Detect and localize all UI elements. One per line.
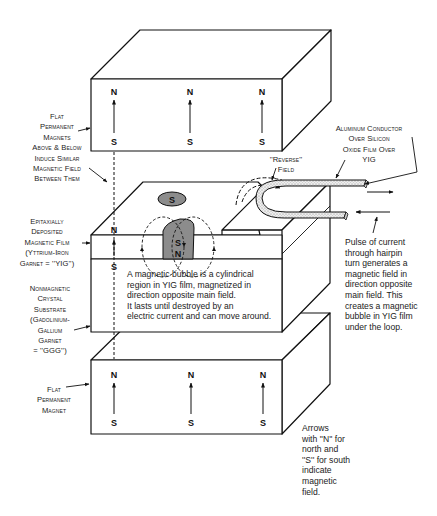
note-arrows: Arrows with ''N'' for north and ''S'' fo… bbox=[302, 423, 382, 497]
note-line: ''S'' for south bbox=[302, 455, 382, 466]
label-line: Flat bbox=[16, 112, 98, 122]
label-line: Over Silicon bbox=[320, 134, 418, 144]
note-line: A magnetic bubble is a cylindrical bbox=[127, 269, 287, 280]
note-line: direction opposite main field. bbox=[127, 290, 287, 301]
note-line: under the loop. bbox=[345, 322, 437, 333]
label-line: Nonmagnetic bbox=[14, 284, 86, 294]
label-line: Induce Similar bbox=[16, 154, 98, 164]
label-line: Gallium bbox=[14, 326, 86, 336]
note-line: direction opposite bbox=[345, 279, 437, 290]
pole-s: S bbox=[111, 418, 117, 428]
note-line: field. bbox=[302, 487, 382, 498]
leader-pulse bbox=[373, 217, 377, 233]
top-magnet bbox=[91, 30, 331, 151]
note-line: turn generates a bbox=[345, 258, 437, 269]
note-line: bubble in YIG film bbox=[345, 311, 437, 322]
note-pulse: Pulse of current through hairpin turn ge… bbox=[345, 237, 437, 332]
label-line: ''Reverse'' bbox=[260, 155, 312, 165]
note-line: magnetic bbox=[302, 476, 382, 487]
note-line: main field. This bbox=[345, 290, 437, 301]
pole-s: S bbox=[188, 418, 194, 428]
note-line: Arrows bbox=[302, 423, 382, 434]
label-line: Garnet = ''YIG'') bbox=[6, 259, 88, 269]
label-line: Above & Below bbox=[16, 143, 98, 153]
pole-n: N bbox=[259, 87, 266, 97]
label-line: Permanent bbox=[24, 395, 84, 405]
label-line: Field bbox=[260, 165, 312, 175]
label-line: Aluminum Conductor bbox=[320, 124, 418, 134]
note-line: creates a magnetic bbox=[345, 301, 437, 312]
label-line: Between Them bbox=[16, 174, 98, 184]
label-bottom-magnet: Flat Permanent Magnet bbox=[24, 385, 84, 416]
pole-s: S bbox=[187, 137, 193, 147]
label-line: Magnet bbox=[24, 406, 84, 416]
pole-s: S bbox=[111, 137, 117, 147]
note-line: magnetic field in bbox=[345, 269, 437, 280]
label-line: Magnetic Field bbox=[16, 164, 98, 174]
note-line: region in YIG film, magnetized in bbox=[127, 280, 287, 291]
note-line: through hairpin bbox=[345, 248, 437, 259]
pole-n: N bbox=[260, 370, 267, 380]
note-line: It lasts until destroyed by an bbox=[127, 301, 287, 312]
bottom-magnet-front-face bbox=[91, 360, 282, 434]
label-line: Garnet bbox=[14, 336, 86, 346]
label-line: (Yttrium-Iron bbox=[6, 248, 88, 258]
note-line: with ''N'' for bbox=[302, 434, 382, 445]
label-top-magnets: Flat Permanent Magnets Above & Below Ind… bbox=[16, 112, 98, 185]
film-pole-n: N bbox=[111, 225, 118, 235]
label-yig-film: Epitaxially Deposited Magnetic Film (Ytt… bbox=[6, 217, 88, 269]
label-line: (Gadolinium- bbox=[14, 315, 86, 325]
pole-n: N bbox=[187, 87, 194, 97]
note-line: Pulse of current bbox=[345, 237, 437, 248]
note-line: north and bbox=[302, 444, 382, 455]
label-line: Magnets bbox=[16, 133, 98, 143]
bubble-pole-n: N bbox=[175, 249, 182, 259]
label-line: Magnetic Film bbox=[6, 238, 88, 248]
pole-s: S bbox=[260, 418, 266, 428]
label-line: Flat bbox=[24, 385, 84, 395]
note-bubble: A magnetic bubble is a cylindrical regio… bbox=[127, 269, 287, 322]
note-line: electric current and can move around. bbox=[127, 311, 287, 322]
label-conductor: Aluminum Conductor Over Silicon Oxide Fi… bbox=[320, 124, 418, 166]
label-line: Permanent bbox=[16, 122, 98, 132]
pole-n: N bbox=[111, 87, 118, 97]
label-line: YIG bbox=[320, 155, 418, 165]
pole-n: N bbox=[111, 370, 118, 380]
label-line: Oxide Film Over bbox=[320, 145, 418, 155]
surface-bubble-pole: S bbox=[169, 195, 175, 205]
note-line: indicate bbox=[302, 465, 382, 476]
label-line: Crystal bbox=[14, 294, 86, 304]
label-reverse-field: ''Reverse'' Field bbox=[260, 155, 312, 176]
label-line: = ''GGG'') bbox=[14, 346, 86, 356]
bubble-pole-s: S bbox=[175, 238, 181, 248]
pole-n: N bbox=[188, 370, 195, 380]
label-line: Epitaxially bbox=[6, 217, 88, 227]
label-line: Substrate bbox=[14, 305, 86, 315]
film-pole-s: S bbox=[111, 262, 117, 272]
label-line: Deposited bbox=[6, 227, 88, 237]
label-substrate: Nonmagnetic Crystal Substrate (Gadoliniu… bbox=[14, 284, 86, 357]
pole-s: S bbox=[259, 137, 265, 147]
